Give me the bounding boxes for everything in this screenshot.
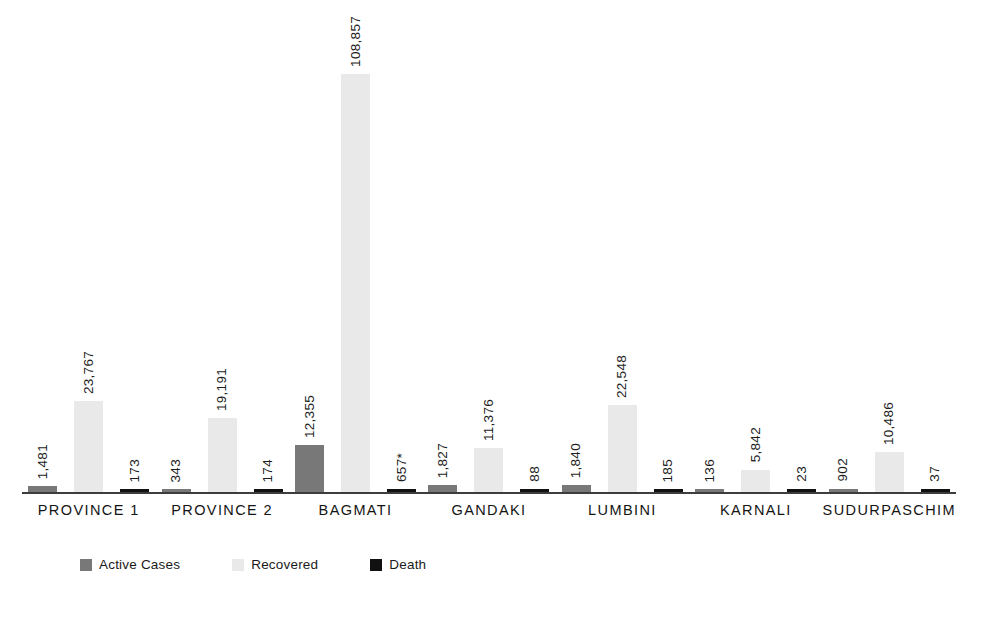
bar-active-cases[interactable]: 12,355 xyxy=(295,20,324,492)
bar-value-text: 174 xyxy=(261,459,275,482)
bar-active-cases[interactable]: 1,840 xyxy=(562,20,591,492)
covid-province-bar-chart: 1,48123,76717334319,19117412,355108,8576… xyxy=(0,0,993,619)
legend-item-death[interactable]: Death xyxy=(370,557,426,572)
bar-value-label: 19,191 xyxy=(215,368,229,411)
bar-active-cases[interactable]: 1,827 xyxy=(428,20,457,492)
bar-group: 1,82711,37688 xyxy=(422,20,555,492)
bar-rect[interactable] xyxy=(341,74,370,492)
bar-value-label: 23 xyxy=(795,466,809,482)
legend-item-recovered[interactable]: Recovered xyxy=(232,557,318,572)
bar-value-label: 23,767 xyxy=(82,351,96,394)
bar-rect[interactable] xyxy=(608,405,637,492)
bar-active-cases[interactable]: 136 xyxy=(695,20,724,492)
bar-active-cases[interactable]: 1,481 xyxy=(28,20,57,492)
bar-value-label: 12,355 xyxy=(302,395,316,438)
bar-value-label: 174 xyxy=(261,459,275,482)
bar-value-text: 657* xyxy=(394,453,408,482)
legend-swatch-icon xyxy=(370,559,382,571)
plot-area: 1,48123,76717334319,19117412,355108,8576… xyxy=(22,20,956,492)
bar-value-label: 11,376 xyxy=(482,399,496,441)
x-axis-category-labels: PROVINCE 1PROVINCE 2BAGMATIGANDAKILUMBIN… xyxy=(22,502,956,528)
legend-swatch-icon xyxy=(80,559,92,571)
bar-rect[interactable] xyxy=(428,485,457,492)
bar-recovered[interactable]: 10,486 xyxy=(875,20,904,492)
bar-value-text: 37 xyxy=(928,466,942,482)
bar-value-text: 902 xyxy=(836,458,850,481)
category-label-gandaki: GANDAKI xyxy=(451,502,526,518)
legend-label: Recovered xyxy=(251,557,318,572)
bar-recovered[interactable]: 22,548 xyxy=(608,20,637,492)
bar-value-label: 22,548 xyxy=(615,355,629,398)
bar-value-text: 88 xyxy=(528,466,542,482)
bar-group: 1365,84223 xyxy=(689,20,822,492)
legend-swatch-icon xyxy=(232,559,244,571)
bar-group: 1,48123,767173 xyxy=(22,20,155,492)
bar-rect[interactable] xyxy=(474,448,503,492)
bar-recovered[interactable]: 108,857 xyxy=(341,20,370,492)
bar-value-label: 343 xyxy=(169,459,183,482)
bar-value-text: 1,840 xyxy=(569,443,583,478)
bar-value-label: 902 xyxy=(836,458,850,481)
bar-value-label: 108,857 xyxy=(348,16,362,67)
bar-rect[interactable] xyxy=(875,452,904,492)
bar-rect[interactable] xyxy=(295,445,324,492)
bar-group: 90210,48637 xyxy=(823,20,956,492)
bar-value-text: 1,827 xyxy=(436,443,450,478)
bar-value-text: 10,486 xyxy=(882,402,896,445)
legend-label: Death xyxy=(389,557,426,572)
bar-rect[interactable] xyxy=(74,401,103,492)
bar-value-text: 19,191 xyxy=(215,368,229,411)
bar-recovered[interactable]: 23,767 xyxy=(74,20,103,492)
bar-recovered[interactable]: 5,842 xyxy=(741,20,770,492)
bar-value-label: 657* xyxy=(394,453,408,482)
bar-value-text: 12,355 xyxy=(302,395,316,438)
bar-value-text: 23,767 xyxy=(82,351,96,394)
bar-group: 12,355108,857657* xyxy=(289,20,422,492)
bar-value-text: 23 xyxy=(795,466,809,482)
bar-death[interactable]: 88 xyxy=(520,20,549,492)
bar-value-label: 1,827 xyxy=(436,443,450,478)
bar-rect[interactable] xyxy=(208,418,237,492)
bar-value-text: 5,842 xyxy=(749,427,763,462)
bar-value-text: 185 xyxy=(661,459,675,482)
chart-legend: Active CasesRecoveredDeath xyxy=(80,557,478,572)
bar-value-text: 173 xyxy=(128,459,142,482)
category-label-province-1: PROVINCE 1 xyxy=(38,502,140,518)
bar-value-text: 22,548 xyxy=(615,355,629,398)
bar-value-label: 173 xyxy=(128,459,142,482)
bar-death[interactable]: 37 xyxy=(921,20,950,492)
bar-value-text: 11,376 xyxy=(482,399,496,441)
bar-value-text: 343 xyxy=(169,459,183,482)
bar-rect[interactable] xyxy=(741,470,770,492)
bar-value-label: 37 xyxy=(928,466,942,482)
category-label-province-2: PROVINCE 2 xyxy=(171,502,273,518)
bar-recovered[interactable]: 19,191 xyxy=(208,20,237,492)
bar-value-text: 1,481 xyxy=(36,444,50,479)
category-label-karnali: KARNALI xyxy=(720,502,792,518)
bar-value-label: 1,840 xyxy=(569,443,583,478)
bar-rect[interactable] xyxy=(562,485,591,492)
legend-item-active-cases[interactable]: Active Cases xyxy=(80,557,180,572)
bar-death[interactable]: 657* xyxy=(387,20,416,492)
category-label-bagmati: BAGMATI xyxy=(319,502,393,518)
category-label-lumbini: LUMBINI xyxy=(588,502,657,518)
bar-value-label: 136 xyxy=(703,459,717,482)
bar-value-label: 185 xyxy=(661,459,675,482)
bar-death[interactable]: 185 xyxy=(654,20,683,492)
bar-value-text: 108,857 xyxy=(348,16,362,67)
bar-group: 1,84022,548185 xyxy=(556,20,689,492)
bar-value-label: 5,842 xyxy=(749,427,763,462)
bar-active-cases[interactable]: 902 xyxy=(829,20,858,492)
category-label-sudurpaschim: SUDURPASCHIM xyxy=(823,502,956,518)
bar-death[interactable]: 174 xyxy=(254,20,283,492)
bar-death[interactable]: 173 xyxy=(120,20,149,492)
bar-recovered[interactable]: 11,376 xyxy=(474,20,503,492)
bar-value-label: 1,481 xyxy=(36,444,50,479)
bar-death[interactable]: 23 xyxy=(787,20,816,492)
bar-value-label: 10,486 xyxy=(882,402,896,445)
bar-value-text: 136 xyxy=(703,459,717,482)
bar-value-label: 88 xyxy=(528,466,542,482)
x-axis-baseline xyxy=(22,492,956,494)
bar-active-cases[interactable]: 343 xyxy=(162,20,191,492)
bar-group: 34319,191174 xyxy=(155,20,288,492)
